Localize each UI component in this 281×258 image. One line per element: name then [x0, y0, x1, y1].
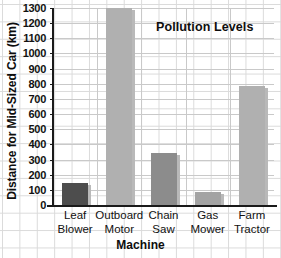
y-tick-label: 1300 [23, 4, 46, 13]
x-axis-title: Machine [0, 238, 281, 252]
y-tick-label: 1000 [23, 49, 46, 58]
bar-chain-saw [151, 153, 177, 205]
y-tick-label: 100 [29, 186, 46, 195]
y-axis-title: Distance for Mid-Sized Car (km) [5, 13, 19, 209]
x-tick-label-line: Tractor [212, 222, 281, 236]
bar-outboard-motor [106, 8, 132, 205]
y-tick-label: 600 [29, 110, 46, 119]
x-axis-line [47, 205, 277, 207]
y-tick-label: 500 [29, 125, 46, 134]
y-tick-mark [50, 205, 54, 206]
bar-gas-mower [195, 192, 221, 205]
y-tick-label: 1200 [23, 19, 46, 28]
y-tick-label: 200 [29, 171, 46, 180]
x-tick-label-line: Farm [212, 208, 281, 222]
bar-farm-tractor [239, 86, 265, 205]
chart-screenshot: 0100200300400500600700800900100011001200… [0, 0, 281, 258]
bars-layer [53, 8, 277, 205]
y-tick-label: 800 [29, 80, 46, 89]
chart-title: Pollution Levels [156, 20, 253, 34]
y-tick-label: 400 [29, 140, 46, 149]
y-tick-label: 700 [29, 95, 46, 104]
x-axis-tick-labels: LeafBlowerOutboardMotorChainSawGasMowerF… [53, 208, 277, 240]
bar-leaf-blower [62, 183, 88, 205]
y-tick-label: 300 [29, 156, 46, 165]
y-tick-label: 1100 [23, 34, 46, 43]
x-tick-label: FarmTractor [212, 208, 281, 236]
y-tick-label: 900 [29, 65, 46, 74]
